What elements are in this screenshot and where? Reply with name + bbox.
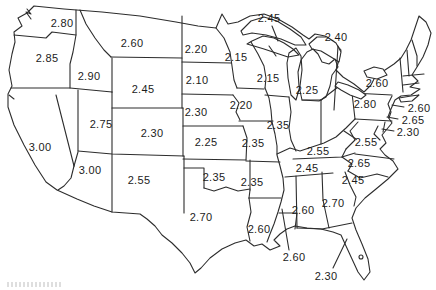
value-label-idaho: 2.90 (78, 71, 101, 82)
value-label-north-carolina: 2.65 (348, 158, 371, 169)
value-label-new-jersey: 2.60 (408, 103, 431, 114)
value-label-louisiana: 2.60 (248, 224, 271, 235)
value-label-ohio: 2.40 (325, 32, 348, 43)
value-label-north-dakota: 2.20 (185, 44, 208, 55)
state-value-labels: 2.802.852.902.602.452.202.102.302.202.25… (0, 0, 436, 290)
value-label-georgia: 2.70 (322, 198, 345, 209)
value-label-kansas: 2.25 (195, 137, 218, 148)
value-label-maryland: 2.30 (397, 127, 420, 138)
value-label-florida: 2.30 (315, 271, 338, 282)
value-label-south-carolina: 2.45 (342, 175, 365, 186)
value-label-missouri: 2.35 (242, 138, 265, 149)
value-label-texas: 2.70 (190, 212, 213, 223)
value-label-new-mexico: 2.55 (128, 175, 151, 186)
value-label-west-virginia: 2.55 (355, 137, 378, 148)
value-label-mississippi: 2.60 (283, 252, 306, 263)
value-label-montana: 2.60 (121, 38, 144, 49)
scan-artifact (7, 282, 61, 287)
value-label-new-york: 2.60 (366, 78, 389, 89)
value-label-arizona: 3.00 (79, 165, 102, 176)
value-label-california: 3.00 (29, 142, 52, 153)
value-label-south-dakota: 2.10 (186, 75, 209, 86)
value-label-alabama: 2.60 (292, 205, 315, 216)
value-label-arkansas: 2.35 (241, 177, 264, 188)
value-label-michigan-upper-peninsula: 2.45 (258, 13, 281, 24)
value-label-washington: 2.80 (51, 18, 74, 29)
value-label-iowa: 2.20 (230, 100, 253, 111)
value-label-oregon: 2.85 (36, 53, 59, 64)
value-label-illinois: 2.35 (267, 120, 290, 131)
value-label-oklahoma: 2.35 (203, 172, 226, 183)
us-values-map-figure: 2.802.852.902.602.452.202.102.302.202.25… (0, 0, 436, 290)
value-label-colorado: 2.30 (141, 128, 164, 139)
value-label-wyoming: 2.45 (132, 84, 155, 95)
value-label-tennessee: 2.45 (296, 163, 319, 174)
value-label-pennsylvania: 2.80 (354, 99, 377, 110)
value-label-nebraska: 2.30 (185, 107, 208, 118)
value-label-kentucky: 2.55 (307, 146, 330, 157)
value-label-wisconsin: 2.15 (257, 73, 280, 84)
value-label-utah: 2.75 (90, 119, 113, 130)
value-label-michigan: 2.25 (296, 85, 319, 96)
value-label-delaware: 2.65 (402, 115, 425, 126)
value-label-minnesota: 2.15 (225, 52, 248, 63)
